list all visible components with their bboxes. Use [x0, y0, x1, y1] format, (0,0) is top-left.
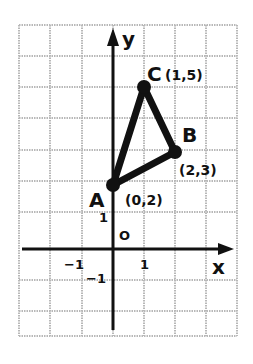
point-b-coord: (2,3) — [179, 163, 217, 177]
x-tick-1: 1 — [140, 258, 149, 271]
y-tick-1: 1 — [99, 211, 108, 224]
y-axis-label: y — [122, 29, 135, 49]
coordinate-plane — [0, 0, 253, 364]
point-b-marker — [168, 145, 182, 159]
point-a-marker — [106, 178, 120, 192]
x-axis-label: x — [212, 257, 225, 277]
x-axis — [22, 243, 234, 255]
x-axis-arrow-icon — [218, 243, 234, 255]
point-c-coord: (1,5) — [165, 68, 203, 82]
point-a-coord: (0,2) — [125, 193, 163, 207]
y-axis-arrow-icon — [107, 28, 119, 46]
y-tick-neg1: −1 — [86, 272, 106, 285]
point-c-name: C — [147, 64, 162, 84]
x-tick-neg1: −1 — [64, 258, 84, 271]
point-b-name: B — [182, 125, 197, 145]
origin-label: O — [119, 229, 130, 242]
point-a-name: A — [89, 190, 104, 210]
